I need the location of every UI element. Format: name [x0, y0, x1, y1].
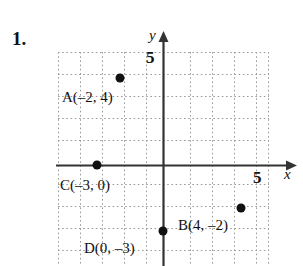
y-axis-tick-5: 5	[146, 48, 155, 68]
point-C-label: C(–3, 0)	[60, 177, 110, 194]
problem-number: 1.	[12, 28, 26, 50]
point-D-label: D(0, –3)	[84, 240, 135, 257]
point-A-label: A(–2, 4)	[62, 89, 113, 106]
point-D-dot	[159, 227, 168, 236]
point-B-dot	[237, 204, 246, 213]
coordinate-plane-figure: 1.	[0, 0, 303, 266]
point-C-dot	[93, 161, 102, 170]
point-B-label: B(4, –2)	[178, 217, 228, 234]
point-A-dot	[116, 74, 125, 83]
y-axis-label: y	[149, 27, 156, 44]
x-axis-label: x	[284, 166, 291, 183]
x-axis-tick-5: 5	[253, 168, 262, 188]
